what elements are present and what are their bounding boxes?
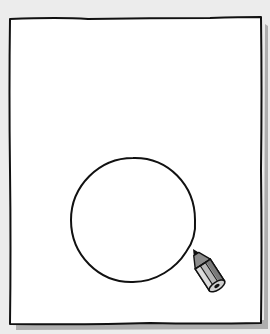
illustration-canvas <box>0 0 270 334</box>
paper-sheet <box>10 17 262 324</box>
